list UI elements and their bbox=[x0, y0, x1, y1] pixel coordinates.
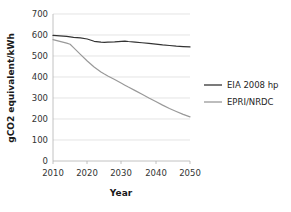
x-tick-label-2020: 2020 bbox=[76, 168, 98, 178]
y-tick-label-500: 500 bbox=[32, 51, 48, 61]
line-chart: 700 600 500 400 300 200 100 0 2010 2020 … bbox=[0, 0, 291, 212]
legend: EIA 2008 hp EPRI/NRDC bbox=[204, 80, 279, 107]
y-tick-label-300: 300 bbox=[32, 93, 48, 103]
y-axis-title: gCO2 equivalent/kWh bbox=[6, 33, 16, 143]
series-line-epri-nrdc bbox=[53, 40, 190, 117]
x-tick-marks bbox=[53, 161, 190, 164]
x-tick-label-2010: 2010 bbox=[42, 168, 64, 178]
x-tick-label-2040: 2040 bbox=[145, 168, 167, 178]
legend-label-eia-2008-hp: EIA 2008 hp bbox=[227, 80, 279, 90]
x-tick-label-2030: 2030 bbox=[110, 168, 132, 178]
chart-figure: 700 600 500 400 300 200 100 0 2010 2020 … bbox=[0, 0, 291, 212]
y-tick-label-200: 200 bbox=[32, 114, 48, 124]
x-axis-title: Year bbox=[109, 188, 133, 198]
y-tick-label-600: 600 bbox=[32, 30, 48, 40]
y-tick-label-100: 100 bbox=[32, 135, 48, 145]
gridlines bbox=[53, 14, 190, 140]
y-tick-label-0: 0 bbox=[43, 156, 48, 166]
y-tick-label-700: 700 bbox=[32, 9, 48, 19]
y-tick-labels: 700 600 500 400 300 200 100 0 bbox=[32, 9, 48, 166]
axis-lines bbox=[53, 14, 190, 161]
y-tick-label-400: 400 bbox=[32, 72, 48, 82]
x-tick-label-2050: 2050 bbox=[179, 168, 201, 178]
series-lines bbox=[53, 35, 190, 116]
series-line-eia-2008-hp bbox=[53, 35, 190, 47]
legend-label-epri-nrdc: EPRI/NRDC bbox=[227, 97, 274, 107]
x-tick-labels: 2010 2020 2030 2040 2050 bbox=[42, 168, 201, 178]
